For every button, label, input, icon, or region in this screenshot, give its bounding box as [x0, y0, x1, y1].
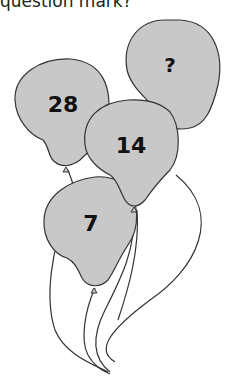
balloon-label-7: 7 [83, 211, 98, 236]
balloon-label-14: 14 [116, 133, 147, 158]
balloon-label-28: 28 [48, 92, 79, 117]
balloon-label-question: ? [164, 53, 176, 77]
balloon-illustration: ? 28 7 14 [0, 0, 229, 383]
